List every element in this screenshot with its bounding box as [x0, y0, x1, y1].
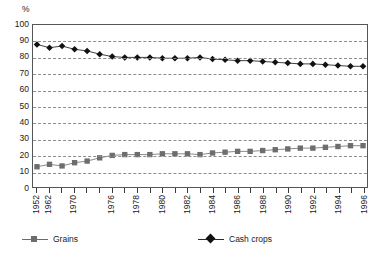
y-axis-tick-label: 30	[3, 134, 29, 143]
x-axis-tick	[213, 188, 214, 193]
x-axis-tick	[124, 188, 125, 193]
x-axis-tick	[99, 188, 100, 193]
x-axis-tick	[74, 188, 75, 193]
x-axis-tick	[238, 188, 239, 193]
y-axis-unit-label: %	[22, 4, 30, 14]
y-axis-tick-label: 40	[3, 118, 29, 127]
y-axis-tick-label: 50	[3, 102, 29, 111]
x-axis-tick-label: 1978	[132, 195, 141, 214]
x-axis-tick	[351, 188, 352, 193]
x-axis-tick	[187, 188, 188, 193]
x-axis-tick	[326, 188, 327, 193]
y-axis-tick-label: 60	[3, 85, 29, 94]
gridline	[33, 107, 367, 108]
x-axis-tick	[263, 188, 264, 193]
x-axis-tick-label: 1990	[284, 195, 293, 214]
x-axis-tick-label: 1984	[208, 195, 217, 214]
x-axis-tick-label: 1976	[107, 195, 116, 214]
gridline	[33, 173, 367, 174]
y-axis: 0102030405060708090100	[0, 24, 29, 188]
x-axis-tick	[200, 188, 201, 193]
legend-item-cash-crops: Cash crops	[198, 234, 272, 244]
series-cash-crops	[34, 41, 367, 69]
x-axis-tick	[137, 188, 138, 193]
legend-item-grains: Grains	[22, 234, 78, 244]
x-axis-tick-label: 1962	[44, 195, 53, 214]
y-axis-tick-label: 80	[3, 52, 29, 61]
x-axis-tick-label: 1988	[259, 195, 268, 214]
x-axis-tick	[250, 188, 251, 193]
x-axis-tick	[339, 188, 340, 193]
legend-label-grains: Grains	[53, 234, 78, 244]
x-axis-tick-label: 1970	[69, 195, 78, 214]
x-axis-tick	[112, 188, 113, 193]
gridline	[33, 91, 367, 92]
gridline	[33, 74, 367, 75]
chart-legend: Grains Cash crops	[0, 232, 377, 252]
x-axis-tick	[276, 188, 277, 193]
x-axis-tick	[86, 188, 87, 193]
x-axis-tick-label: 1952	[32, 195, 41, 214]
legend-label-cash-crops: Cash crops	[229, 234, 272, 244]
y-axis-tick-label: 0	[3, 184, 29, 193]
gridline	[33, 140, 367, 141]
x-axis-tick-label: 1982	[183, 195, 192, 214]
x-axis-tick	[225, 188, 226, 193]
x-axis-tick	[175, 188, 176, 193]
y-axis-tick-label: 100	[3, 20, 29, 29]
cash-crops-marker-icon	[198, 234, 224, 244]
x-axis-tick-label: 1996	[360, 195, 369, 214]
y-axis-tick-label: 10	[3, 167, 29, 176]
grains-marker-icon	[22, 234, 48, 244]
x-axis-tick-label: 1980	[158, 195, 167, 214]
x-axis-tick	[36, 188, 37, 193]
x-axis-tick	[301, 188, 302, 193]
x-axis-tick-label: 1992	[309, 195, 318, 214]
x-axis-tick	[49, 188, 50, 193]
chart-figure: % 0102030405060708090100 195219621970197…	[0, 0, 377, 255]
gridline	[33, 41, 367, 42]
x-axis-tick	[61, 188, 62, 193]
x-axis-tick-label: 1994	[334, 195, 343, 214]
x-axis-tick	[288, 188, 289, 193]
gridline	[33, 156, 367, 157]
gridline	[33, 123, 367, 124]
y-axis-tick-label: 20	[3, 151, 29, 160]
x-axis-tick	[150, 188, 151, 193]
gridline	[33, 58, 367, 59]
y-axis-tick-label: 70	[3, 69, 29, 78]
series-layer	[33, 25, 367, 187]
x-axis-tick-label: 1986	[233, 195, 242, 214]
x-axis-tick	[314, 188, 315, 193]
y-axis-tick-label: 90	[3, 36, 29, 45]
x-axis-tick	[364, 188, 365, 193]
x-axis-tick	[162, 188, 163, 193]
plot-area	[32, 24, 368, 188]
